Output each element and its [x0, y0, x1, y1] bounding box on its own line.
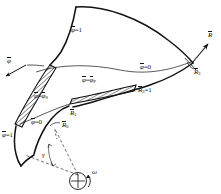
label-phi-equals-zero-right: φ=0 [140, 64, 151, 71]
r-vector-arrow [192, 44, 208, 63]
label-r3-corner: R3 [194, 69, 200, 76]
label-phi-equals-phi-p: φ=φP [82, 77, 96, 84]
figure-canvas: φ=1 φ φ=φS φ=φP φ=0 φ=0 φ=1 R R3 R3=1 R1… [0, 0, 221, 194]
label-omega-axis: ω [92, 169, 97, 176]
label-phi-equals-one-top: φ=1 [71, 27, 82, 34]
top-crown-curve [76, 7, 193, 63]
label-r1-mid: R1 [70, 110, 76, 117]
label-phi-vector: φ [7, 58, 11, 65]
label-phi-equals-one-lower-left: φ=1 [2, 132, 13, 139]
pressure-side-strip [70, 85, 136, 104]
label-r0-lower: R0 [62, 122, 68, 129]
phi-one-upper-edge [50, 7, 76, 65]
label-r3-equals-one: R3=1 [138, 87, 151, 94]
label-gamma-angle: γ [42, 152, 45, 159]
mid-r-curve [36, 62, 191, 72]
label-phi-equals-phi-s: φ=φS [34, 93, 48, 100]
dashed-radii [25, 129, 78, 175]
label-r-vector: R [208, 32, 212, 39]
hub-arc-lower-left [15, 126, 35, 166]
label-phi-equals-zero-lower: φ=0 [31, 119, 42, 126]
omega-axis-marker [70, 173, 91, 190]
phi-vector-arrow [6, 65, 44, 76]
